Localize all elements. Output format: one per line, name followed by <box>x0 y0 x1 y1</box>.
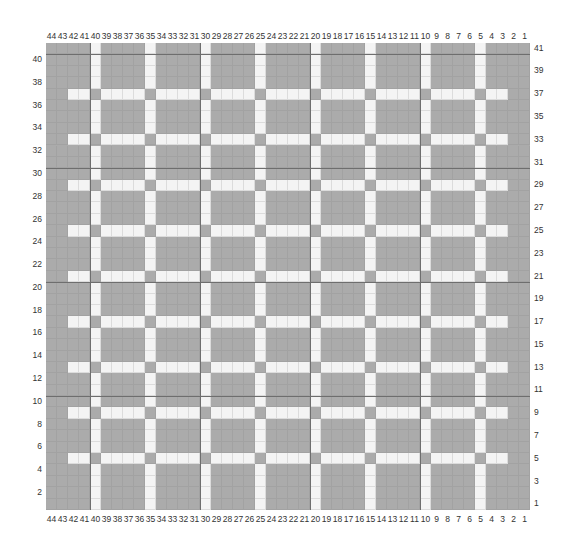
grid-cell <box>486 134 497 145</box>
grid-cell <box>266 362 277 373</box>
grid-cell <box>486 259 497 270</box>
grid-cell <box>123 202 134 213</box>
grid-cell <box>497 168 508 179</box>
grid-cell <box>101 305 112 316</box>
grid-cell <box>398 111 409 122</box>
grid-cell <box>387 362 398 373</box>
grid-cell <box>200 282 211 293</box>
grid-cell <box>90 476 101 487</box>
grid-cell <box>101 464 112 475</box>
grid-cell <box>79 442 90 453</box>
grid-cell <box>431 351 442 362</box>
grid-cell <box>233 328 244 339</box>
grid-cell <box>134 362 145 373</box>
grid-cell <box>79 362 90 373</box>
grid-cell <box>123 214 134 225</box>
grid-cell <box>200 214 211 225</box>
grid-cell <box>123 453 134 464</box>
row-label-right: 31 <box>534 157 543 167</box>
grid-cell <box>398 66 409 77</box>
grid-cell <box>464 134 475 145</box>
grid-cell <box>409 396 420 407</box>
grid-cell <box>46 362 57 373</box>
grid-cell <box>277 442 288 453</box>
grid-cell <box>464 77 475 88</box>
grid-cell <box>46 339 57 350</box>
major-gridline-horizontal <box>46 282 530 283</box>
grid-cell <box>57 476 68 487</box>
grid-cell <box>332 134 343 145</box>
grid-cell <box>222 316 233 327</box>
grid-cell <box>299 385 310 396</box>
grid-cell <box>68 282 79 293</box>
grid-cell <box>497 259 508 270</box>
major-gridline-horizontal <box>46 168 530 169</box>
grid-cell <box>79 282 90 293</box>
grid-cell <box>519 476 530 487</box>
grid-cell <box>508 214 519 225</box>
grid-cell <box>123 100 134 111</box>
grid-cell <box>156 385 167 396</box>
grid-cell <box>123 351 134 362</box>
grid-cell <box>167 464 178 475</box>
grid-cell <box>167 100 178 111</box>
grid-cell <box>134 442 145 453</box>
grid-cell <box>354 248 365 259</box>
grid-cell <box>365 487 376 498</box>
grid-cell <box>68 476 79 487</box>
grid-cell <box>387 351 398 362</box>
grid-cell <box>486 191 497 202</box>
grid-cell <box>255 385 266 396</box>
grid-cell <box>354 111 365 122</box>
grid-cell <box>332 202 343 213</box>
grid-cell <box>156 419 167 430</box>
grid-cell <box>321 442 332 453</box>
column-label-top: 15 <box>365 31 376 41</box>
column-label-top: 10 <box>420 31 431 41</box>
grid-cell <box>453 77 464 88</box>
grid-cell <box>277 100 288 111</box>
grid-cell <box>233 248 244 259</box>
grid-cell <box>299 180 310 191</box>
grid-cell <box>255 373 266 384</box>
row-label-right: 15 <box>534 339 543 349</box>
grid-cell <box>442 339 453 350</box>
grid-cell <box>288 259 299 270</box>
grid-cell <box>464 362 475 373</box>
grid-cell <box>398 237 409 248</box>
grid-cell <box>90 407 101 418</box>
grid-cell <box>79 237 90 248</box>
grid-cell <box>310 259 321 270</box>
grid-cell <box>200 464 211 475</box>
grid-cell <box>398 77 409 88</box>
grid-cell <box>398 487 409 498</box>
grid-cell <box>288 453 299 464</box>
grid-cell <box>486 407 497 418</box>
grid-cell <box>57 362 68 373</box>
grid-cell <box>101 442 112 453</box>
grid-cell <box>508 430 519 441</box>
column-label-top: 23 <box>277 31 288 41</box>
grid-cell <box>453 123 464 134</box>
grid-cell <box>431 407 442 418</box>
grid-cell <box>277 225 288 236</box>
grid-cell <box>189 351 200 362</box>
grid-cell <box>442 305 453 316</box>
grid-cell <box>332 43 343 54</box>
grid-cell <box>475 476 486 487</box>
grid-cell <box>442 180 453 191</box>
grid-cell <box>409 43 420 54</box>
grid-cell <box>79 146 90 157</box>
grid-cell <box>475 294 486 305</box>
row-label-left: 20 <box>33 282 42 292</box>
grid-cell <box>178 487 189 498</box>
grid-cell <box>387 464 398 475</box>
grid-cell <box>464 66 475 77</box>
grid-cell <box>123 464 134 475</box>
grid-cell <box>189 66 200 77</box>
grid-cell <box>200 111 211 122</box>
grid-cell <box>90 168 101 179</box>
grid-cell <box>134 123 145 134</box>
grid-cell <box>299 237 310 248</box>
grid-cell <box>79 499 90 510</box>
